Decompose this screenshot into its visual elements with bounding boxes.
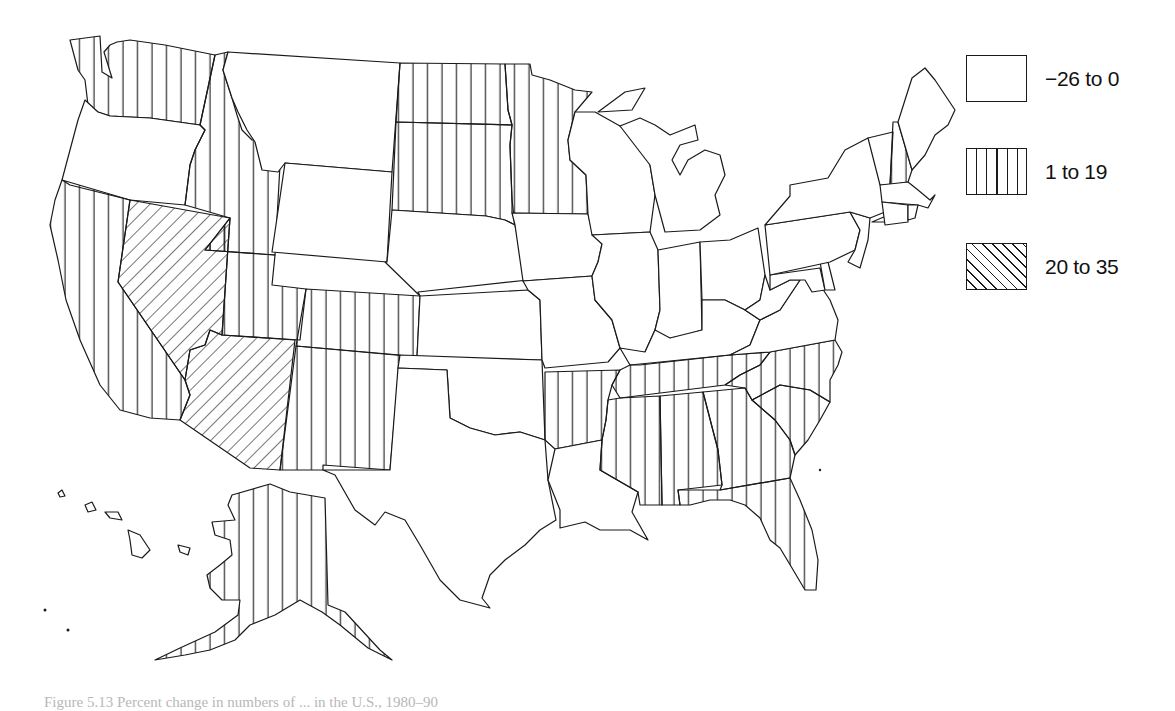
state-ri	[908, 205, 918, 220]
state-az	[180, 330, 295, 470]
state-ia	[512, 213, 602, 281]
island-dot	[819, 469, 821, 471]
island-dot	[44, 609, 47, 612]
state-ne	[385, 210, 528, 296]
state-in	[655, 242, 702, 340]
state-nm	[280, 346, 400, 470]
island-dot	[67, 629, 70, 632]
state-nd	[396, 63, 512, 125]
legend-label: 20 to 35	[1045, 255, 1119, 279]
state-oh	[700, 228, 765, 310]
legend-swatch-blank	[966, 55, 1027, 102]
state-fl	[678, 478, 818, 590]
figure-caption: Figure 5.13 Percent change in numbers of…	[44, 694, 438, 711]
state-sd	[392, 122, 515, 225]
state-hi	[58, 490, 190, 558]
state-wy	[272, 163, 392, 262]
legend-label: 1 to 19	[1045, 160, 1107, 184]
legend-swatch-vertical	[966, 148, 1027, 195]
legend-label: −26 to 0	[1045, 67, 1119, 91]
state-co	[296, 289, 420, 357]
legend-swatch-diagonal	[966, 243, 1027, 290]
state-ct	[882, 202, 908, 225]
state-ks	[417, 290, 542, 360]
